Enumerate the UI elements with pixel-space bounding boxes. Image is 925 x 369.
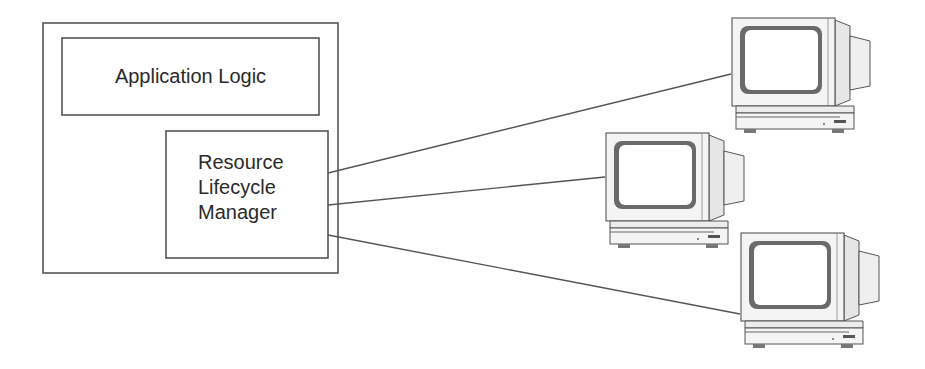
- application-logic-label: Application Logic: [62, 38, 319, 115]
- connection-line-middle: [328, 177, 605, 205]
- rlm-line-1: Resource: [198, 150, 284, 175]
- resource-lifecycle-manager-label: Resource Lifecycle Manager: [198, 150, 284, 225]
- connection-line-bottom: [328, 235, 740, 314]
- rlm-line-2: Lifecycle: [198, 175, 284, 200]
- rlm-line-3: Manager: [198, 200, 284, 225]
- computer-bottom-icon: [741, 233, 879, 348]
- computer-top-icon: [732, 18, 870, 133]
- computer-middle-icon: [606, 133, 744, 248]
